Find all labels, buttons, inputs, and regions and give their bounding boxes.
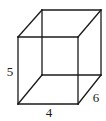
width-label: 4 (46, 105, 53, 120)
depth-label: 6 (93, 90, 100, 105)
top-left-depth-edge (18, 10, 42, 37)
height-label: 5 (7, 64, 14, 79)
depth-edges (18, 10, 101, 104)
cube-diagram: 5 4 6 (0, 0, 106, 121)
top-right-depth-edge (78, 10, 101, 37)
bottom-left-depth-edge (18, 75, 42, 104)
